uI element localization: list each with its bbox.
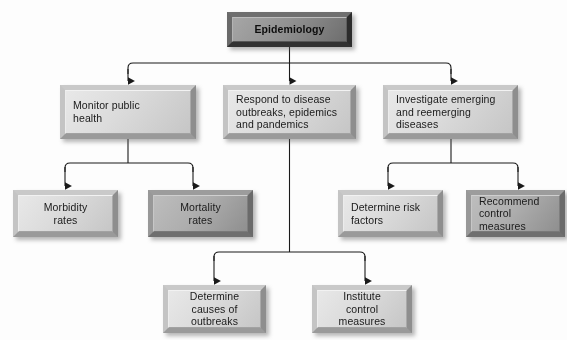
node-label: Determine causes of outbreaks <box>190 290 239 328</box>
node-determine-risk-factors[interactable]: Determine risk factors <box>338 190 443 237</box>
node-label: Investigate emerging and reemerging dise… <box>396 93 495 131</box>
node-investigate-emerging-diseases[interactable]: Investigate emerging and reemerging dise… <box>383 85 518 139</box>
node-face: Determine causes of outbreaks <box>168 290 261 328</box>
edge-investigate-bus <box>388 163 518 172</box>
node-face: Recommend control measures <box>471 195 560 232</box>
node-face: Respond to disease outbreaks, epidemics … <box>228 90 351 134</box>
node-respond-to-disease-outbreaks[interactable]: Respond to disease outbreaks, epidemics … <box>223 85 356 139</box>
node-label: Morbidity rates <box>44 201 88 226</box>
node-face: Epidemiology <box>232 17 347 42</box>
node-label: Mortality rates <box>180 201 221 226</box>
node-recommend-control-measures[interactable]: Recommend control measures <box>466 190 565 237</box>
edge-monitor-bus <box>65 163 193 172</box>
node-label: Institute control measures <box>339 290 386 328</box>
node-label: Monitor public health <box>73 99 140 124</box>
node-face: Morbidity rates <box>18 195 113 232</box>
connector-layer <box>0 0 567 340</box>
node-face: Mortality rates <box>153 195 248 232</box>
node-morbidity-rates[interactable]: Morbidity rates <box>13 190 118 237</box>
node-face: Monitor public health <box>65 90 191 134</box>
node-institute-control-measures[interactable]: Institute control measures <box>312 285 412 333</box>
node-face: Investigate emerging and reemerging dise… <box>388 90 513 134</box>
node-face: Determine risk factors <box>343 195 438 232</box>
edge-respond-bus <box>214 252 365 261</box>
node-label: Determine risk factors <box>351 201 420 226</box>
node-monitor-public-health[interactable]: Monitor public health <box>60 85 196 139</box>
node-face: Institute control measures <box>317 290 407 328</box>
node-determine-causes-of-outbreaks[interactable]: Determine causes of outbreaks <box>163 285 266 333</box>
edge-root-bus <box>128 63 451 74</box>
node-label: Recommend control measures <box>479 195 539 233</box>
node-mortality-rates[interactable]: Mortality rates <box>148 190 253 237</box>
node-label: Respond to disease outbreaks, epidemics … <box>236 93 337 131</box>
diagram-canvas: Epidemiology Monitor public health Respo… <box>0 0 567 340</box>
node-label: Epidemiology <box>254 23 324 36</box>
node-epidemiology[interactable]: Epidemiology <box>227 12 352 47</box>
